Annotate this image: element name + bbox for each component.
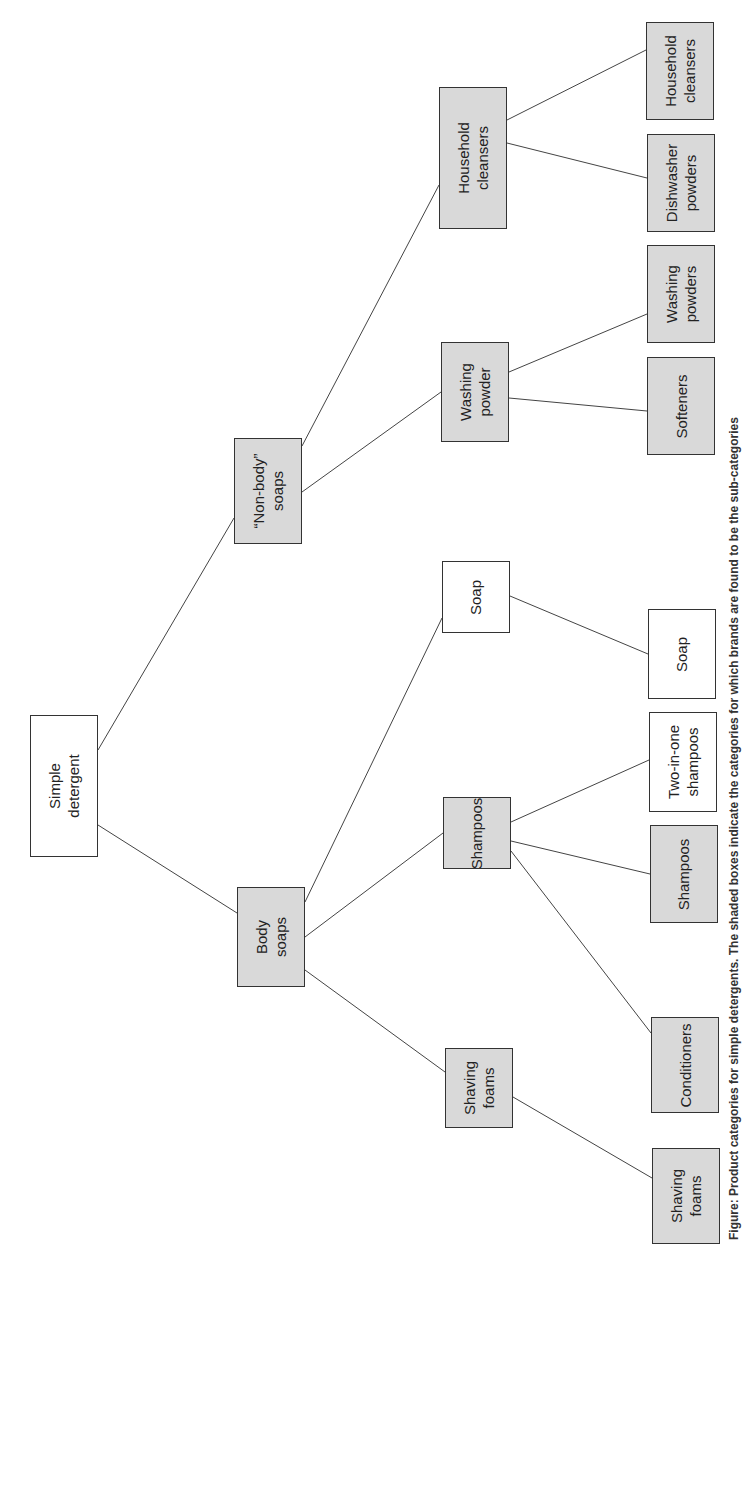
tree-node-l_shav: Shaving foams: [652, 1148, 720, 1244]
node-label: Shaving foams: [460, 1061, 498, 1115]
tree-node-body: Body soaps: [237, 887, 305, 987]
edge-line: [305, 970, 445, 1072]
tree-node-l_sham: Shampoos: [650, 825, 718, 923]
edge-line: [507, 143, 647, 178]
node-label: Two-in-one shampoos: [664, 725, 702, 799]
tree-node-l_cond: Conditioners: [651, 1017, 719, 1113]
edge-line: [509, 314, 647, 372]
node-label: Body soaps: [252, 917, 290, 957]
node-label: Conditioners: [676, 1023, 695, 1107]
tree-node-l_wps: Washing powders: [647, 245, 715, 343]
node-label: Washing powder: [456, 363, 494, 421]
edge-line: [302, 185, 439, 446]
node-label: Household cleansers: [661, 35, 699, 107]
node-label: Simple detergent: [45, 754, 83, 817]
edge-line: [507, 50, 646, 120]
tree-node-hh: Household cleansers: [439, 87, 507, 229]
tree-node-l_soft: Softeners: [647, 357, 715, 455]
node-label: Shampoos: [468, 797, 487, 869]
edge-line: [513, 1097, 652, 1178]
node-label: Dishwasher powders: [662, 144, 700, 222]
connector-lines: [0, 0, 746, 1485]
tree-diagram: Simple detergent“Non-body” soapsBody soa…: [0, 0, 746, 1485]
edge-line: [510, 596, 648, 654]
tree-node-sham: Shampoos: [443, 797, 511, 869]
tree-node-nonbody: “Non-body” soaps: [234, 438, 302, 544]
node-label: Household cleansers: [454, 122, 492, 194]
tree-node-l_hh: Household cleansers: [646, 22, 714, 120]
tree-node-l_soap: Soap: [648, 609, 716, 699]
node-label: “Non-body” soaps: [249, 453, 287, 528]
tree-node-root: Simple detergent: [30, 715, 98, 857]
edge-line: [98, 825, 237, 913]
edge-line: [305, 618, 442, 902]
node-label: Soap: [672, 636, 691, 671]
node-label: Washing powders: [662, 265, 700, 323]
edge-line: [511, 841, 650, 874]
edge-line: [98, 518, 234, 750]
edge-line: [511, 851, 651, 1033]
edge-line: [509, 398, 647, 411]
figure-caption: Figure: Product categories for simple de…: [722, 20, 746, 1240]
edge-line: [511, 760, 649, 822]
node-label: Shampoos: [675, 838, 694, 910]
edge-line: [305, 833, 443, 937]
tree-node-shav: Shaving foams: [445, 1048, 513, 1128]
tree-node-soap: Soap: [442, 561, 510, 633]
tree-node-l_dw: Dishwasher powders: [647, 134, 715, 232]
tree-node-l_two: Two-in-one shampoos: [649, 712, 717, 812]
node-label: Shaving foams: [667, 1169, 705, 1223]
tree-node-wp: Washing powder: [441, 342, 509, 442]
node-label: Softeners: [672, 374, 691, 438]
node-label: Soap: [466, 579, 485, 614]
